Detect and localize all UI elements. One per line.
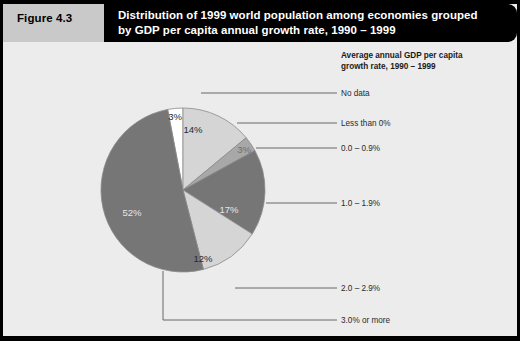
pie-chart: 3%14%3%17%12%52% <box>0 0 520 341</box>
legend-item-no-data: No data <box>341 89 370 98</box>
figure-panel: Figure 4.3 Distribution of 1999 world po… <box>0 0 520 341</box>
legend-item-1-0-1-9: 1.0 – 1.9% <box>341 199 380 208</box>
slice-value-label: 52% <box>122 207 142 218</box>
legend-item-less-than-0: Less than 0% <box>341 119 391 128</box>
slice-value-label: 14% <box>183 124 203 135</box>
slice-value-label: 12% <box>193 253 213 264</box>
slice-value-label: 17% <box>219 204 239 215</box>
legend-item-2-0-2-9: 2.0 – 2.9% <box>341 284 380 293</box>
slice-value-label: 3% <box>168 111 182 122</box>
leader-line <box>163 271 337 320</box>
slice-value-label: 3% <box>237 144 251 155</box>
legend-item-0-0-0-9: 0.0 – 0.9% <box>341 144 380 153</box>
legend-item-3-0-or-more: 3.0% or more <box>341 316 390 325</box>
